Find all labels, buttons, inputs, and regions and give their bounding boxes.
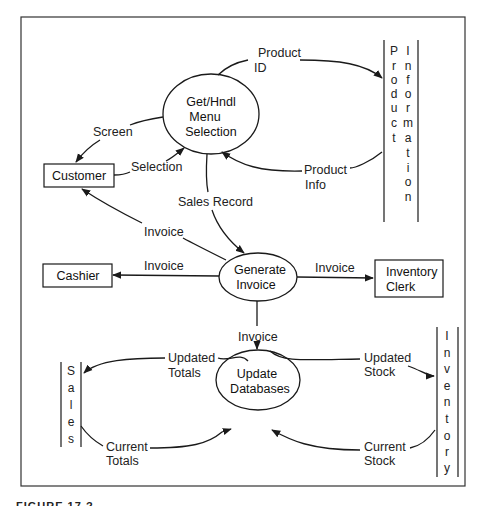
- flow-current-stock-arrow: [410, 430, 435, 448]
- flow-invoice-customer-arrow-2: [82, 189, 142, 223]
- store-inventory: I n v e n t o r y: [437, 327, 458, 477]
- flow-label-updated-totals: Updated: [168, 351, 215, 365]
- svg-text:Customer: Customer: [52, 169, 106, 183]
- svg-text:a: a: [405, 131, 412, 145]
- flow-label-invoice-customer: Invoice: [144, 225, 184, 239]
- svg-text:v: v: [444, 362, 450, 376]
- flow-sales-record-arrow: [206, 154, 208, 192]
- svg-text:S: S: [67, 364, 75, 378]
- svg-text:n: n: [444, 346, 451, 360]
- svg-text:Generate: Generate: [234, 263, 286, 277]
- svg-text:Cashier: Cashier: [56, 269, 99, 283]
- flow-product-id-arrow-2: [300, 60, 382, 78]
- entity-customer: Customer: [44, 164, 114, 187]
- flow-label-product-info: Info: [305, 178, 326, 192]
- svg-text:o: o: [405, 87, 412, 101]
- flow-label-current-stock: Stock: [364, 454, 396, 468]
- process-generate-invoice: Generate Invoice: [219, 253, 297, 301]
- svg-text:r: r: [445, 445, 449, 459]
- svg-text:r: r: [392, 59, 396, 73]
- flow-sales-record-arrow-2: [212, 210, 244, 253]
- flow-label-invoice-cashier: Invoice: [144, 259, 184, 273]
- flow-label-invoice-update: Invoice: [238, 330, 278, 344]
- flow-current-stock-arrow-2: [272, 430, 360, 450]
- svg-text:y: y: [444, 461, 450, 475]
- svg-text:r: r: [406, 101, 410, 115]
- svg-text:f: f: [406, 73, 410, 87]
- svg-text:Clerk: Clerk: [386, 280, 416, 294]
- svg-text:e: e: [444, 379, 451, 393]
- svg-text:l: l: [70, 398, 73, 412]
- entity-inventory-clerk: Inventory Clerk: [375, 260, 443, 297]
- flow-label-invoice-clerk: Invoice: [315, 261, 355, 275]
- flow-label-product-id: Product: [258, 46, 302, 60]
- svg-text:o: o: [391, 73, 398, 87]
- flow-product-info-arrow-2: [222, 152, 302, 171]
- svg-text:s: s: [68, 432, 74, 446]
- flow-label-sales-record: Sales Record: [178, 195, 253, 209]
- svg-text:u: u: [391, 101, 398, 115]
- flow-product-info-arrow: [350, 152, 382, 168]
- store-product-information: P r o d u c t I n f o r m a t i o n: [384, 40, 418, 222]
- entity-label: Customer: [52, 169, 106, 183]
- svg-text:Inventory: Inventory: [386, 265, 438, 279]
- svg-text:a: a: [68, 381, 75, 395]
- flow-label-selection: Selection: [131, 160, 182, 174]
- svg-text:Invoice: Invoice: [236, 278, 276, 292]
- process-label: Databases: [230, 382, 290, 396]
- flow-label-updated-stock: Stock: [364, 365, 396, 379]
- svg-text:I: I: [445, 329, 448, 343]
- svg-text:i: i: [407, 161, 410, 175]
- process-label: Menu: [189, 110, 220, 124]
- flow-current-totals-arrow: [81, 426, 103, 446]
- data-flow-diagram: Get/Hndl Menu Selection Generate Invoice…: [0, 0, 497, 506]
- svg-text:t: t: [445, 412, 449, 426]
- process-get-hndl-menu-selection: Get/Hndl Menu Selection: [163, 74, 259, 154]
- svg-text:Selection: Selection: [185, 125, 236, 139]
- flow-label-updated-stock: Updated: [364, 351, 411, 365]
- flow-screen-arrow-2: [76, 140, 100, 162]
- store-sales: S a l e s: [61, 362, 81, 447]
- entity-label: Inventory: [386, 265, 438, 279]
- flow-invoice-cashier-arrow: [113, 275, 219, 276]
- flow-product-id-arrow: [218, 60, 248, 75]
- entity-label: Cashier: [56, 269, 99, 283]
- flow-current-totals-arrow-2: [150, 429, 231, 448]
- svg-text:o: o: [405, 175, 412, 189]
- flow-invoice-customer-arrow: [183, 238, 226, 260]
- svg-text:t: t: [406, 146, 410, 160]
- flow-screen-arrow: [130, 117, 163, 125]
- flow-label-product-id: ID: [254, 61, 267, 75]
- flow-label-screen: Screen: [93, 125, 133, 139]
- entity-cashier: Cashier: [43, 264, 112, 287]
- svg-text:n: n: [405, 59, 412, 73]
- process-label: Get/Hndl: [186, 95, 235, 109]
- svg-text:Menu: Menu: [189, 110, 220, 124]
- flow-updated-totals-arrow-2: [84, 358, 165, 373]
- svg-text:t: t: [392, 131, 396, 145]
- entity-label: Clerk: [386, 280, 416, 294]
- svg-text:c: c: [391, 116, 397, 130]
- flow-label-current-stock: Current: [364, 440, 406, 454]
- svg-text:e: e: [68, 415, 75, 429]
- svg-text:n: n: [444, 395, 451, 409]
- flow-label-updated-totals: Totals: [168, 366, 201, 380]
- svg-text:Get/Hndl: Get/Hndl: [186, 95, 235, 109]
- flow-label-current-totals: Current: [106, 440, 148, 454]
- svg-text:m: m: [403, 116, 413, 130]
- flow-label-product-info: Product: [304, 163, 348, 177]
- svg-text:d: d: [391, 87, 398, 101]
- svg-text:I: I: [406, 44, 409, 58]
- flow-selection-arrow: [114, 172, 130, 175]
- process-label: Generate: [234, 263, 286, 277]
- process-label: Selection: [185, 125, 236, 139]
- flow-invoice-clerk-arrow: [297, 277, 373, 278]
- svg-text:o: o: [444, 429, 451, 443]
- svg-text:P: P: [390, 44, 398, 58]
- flow-updated-stock-arrow-2: [408, 366, 434, 376]
- process-label: Update: [237, 367, 277, 381]
- process-label: Invoice: [236, 278, 276, 292]
- svg-text:Update: Update: [237, 367, 277, 381]
- figure-caption: FIGURE 17.?: [16, 499, 94, 506]
- svg-text:Databases: Databases: [230, 382, 290, 396]
